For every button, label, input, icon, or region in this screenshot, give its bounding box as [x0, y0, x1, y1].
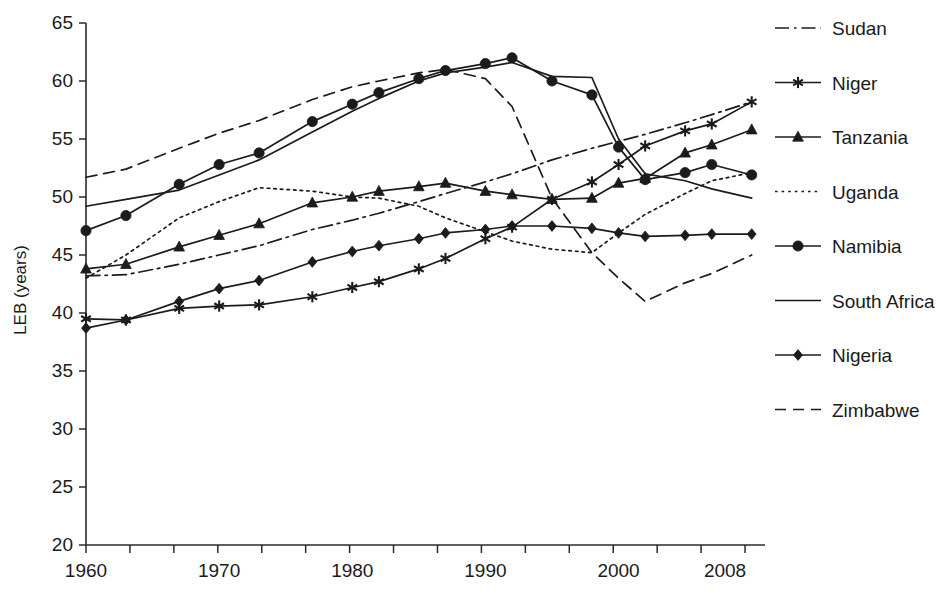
chart-figure: 20253035404550556065 1960197019801990200… — [0, 0, 946, 607]
y-tick-label: 25 — [52, 476, 73, 497]
legend-item-south-africa[interactable]: South Africa — [775, 291, 935, 312]
y-tick-label: 35 — [52, 360, 73, 381]
legend-label: Nigeria — [832, 345, 893, 366]
y-tick-label: 60 — [52, 70, 73, 91]
y-tick-label: 40 — [52, 302, 73, 323]
legend-label: Niger — [832, 73, 878, 94]
x-tick-label: 1970 — [198, 560, 240, 581]
x-tick-label: 1990 — [464, 560, 506, 581]
legend-item-namibia[interactable]: Namibia — [775, 236, 902, 257]
y-axis: 20253035404550556065 — [52, 12, 86, 555]
legend-item-uganda[interactable]: Uganda — [775, 182, 899, 203]
y-tick-label: 50 — [52, 186, 73, 207]
x-tick-label: 2008 — [704, 560, 746, 581]
legend-label: Sudan — [832, 18, 887, 39]
legend-label: Zimbabwe — [832, 400, 920, 421]
y-tick-label: 30 — [52, 418, 73, 439]
line-chart: 20253035404550556065 1960197019801990200… — [0, 0, 946, 607]
legend-item-tanzania[interactable]: Tanzania — [775, 127, 908, 148]
legend-item-niger[interactable]: Niger — [775, 73, 878, 94]
series-nigeria — [82, 221, 757, 334]
legend-label: Uganda — [832, 182, 899, 203]
legend-label: South Africa — [832, 291, 935, 312]
y-tick-label: 45 — [52, 244, 73, 265]
chart-legend: SudanNigerTanzaniaUgandaNamibiaSouth Afr… — [775, 18, 935, 421]
legend-item-nigeria[interactable]: Nigeria — [775, 345, 893, 366]
y-tick-label: 55 — [52, 128, 73, 149]
y-axis-title: LEB (years) — [11, 245, 30, 335]
series-layer — [81, 53, 757, 334]
legend-item-sudan[interactable]: Sudan — [775, 18, 887, 39]
legend-label: Namibia — [832, 236, 902, 257]
x-tick-label: 2000 — [597, 560, 639, 581]
y-tick-label: 65 — [52, 12, 73, 33]
x-tick-label: 1980 — [331, 560, 373, 581]
y-tick-label: 20 — [52, 534, 73, 555]
x-axis: 196019701980199020002008 — [65, 545, 765, 581]
series-tanzania — [81, 124, 757, 273]
legend-item-zimbabwe[interactable]: Zimbabwe — [775, 400, 920, 421]
legend-label: Tanzania — [832, 127, 908, 148]
x-tick-label: 1960 — [65, 560, 107, 581]
